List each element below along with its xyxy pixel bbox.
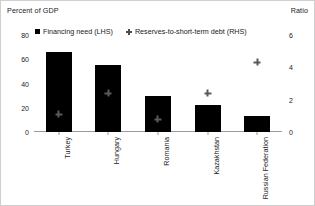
tick-slot (34, 35, 84, 132)
x-axis-label-turkey: Turkey (62, 115, 71, 137)
tick-slot (84, 35, 134, 132)
y-axis-right-tick-label: 0 (289, 129, 293, 136)
tick-slot (232, 35, 282, 132)
y-axis-right-tick-label: 6 (289, 32, 293, 39)
x-axis-label-romania: Romania (161, 108, 170, 137)
chart-figure: Percent of GDP Ratio Financing need (LHS… (0, 0, 315, 206)
tick-slot (133, 35, 183, 132)
x-label-slot: Kazakhstan (183, 135, 233, 205)
square-marker-icon (35, 29, 40, 34)
x-label-slot: Turkey (34, 135, 84, 205)
x-axis-label-hungary: Hungary (112, 110, 121, 137)
y-axis-left: 020406080 (9, 1, 29, 206)
tick-slot (183, 35, 233, 132)
y-axis-left-tick-label: 20 (9, 104, 29, 111)
y-axis-left-tick-label: 60 (9, 56, 29, 63)
x-label-slot: Russian Federation (232, 135, 282, 205)
y-axis-right: 0246 (289, 1, 309, 206)
y-axis-right-tick-label: 4 (289, 64, 293, 71)
x-axis-label-russian-federation: Russian Federation (261, 75, 270, 137)
y-axis-left-tick-label: 40 (9, 80, 29, 87)
x-label-slot: Hungary (84, 135, 134, 205)
x-axis-label-kazakhstan: Kazakhstan (211, 99, 220, 137)
x-label-slot: Romania (133, 135, 183, 205)
diamond-marker-icon (126, 29, 132, 35)
y-axis-left-tick-label: 80 (9, 32, 29, 39)
y-axis-left-tick-label: 0 (9, 129, 29, 136)
y-axis-right-tick-label: 2 (289, 96, 293, 103)
x-axis-category-labels: TurkeyHungaryRomaniaKazakhstanRussian Fe… (34, 135, 282, 205)
